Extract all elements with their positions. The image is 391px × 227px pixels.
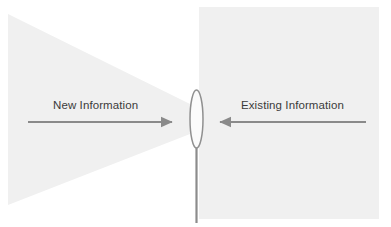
diagram-canvas: New Information Existing Information [0,0,391,227]
new-information-label: New Information [53,100,138,112]
diagram-graphics [0,0,391,227]
existing-information-panel [199,7,379,219]
lens-ellipse [190,90,203,148]
existing-information-label: Existing Information [241,100,344,112]
